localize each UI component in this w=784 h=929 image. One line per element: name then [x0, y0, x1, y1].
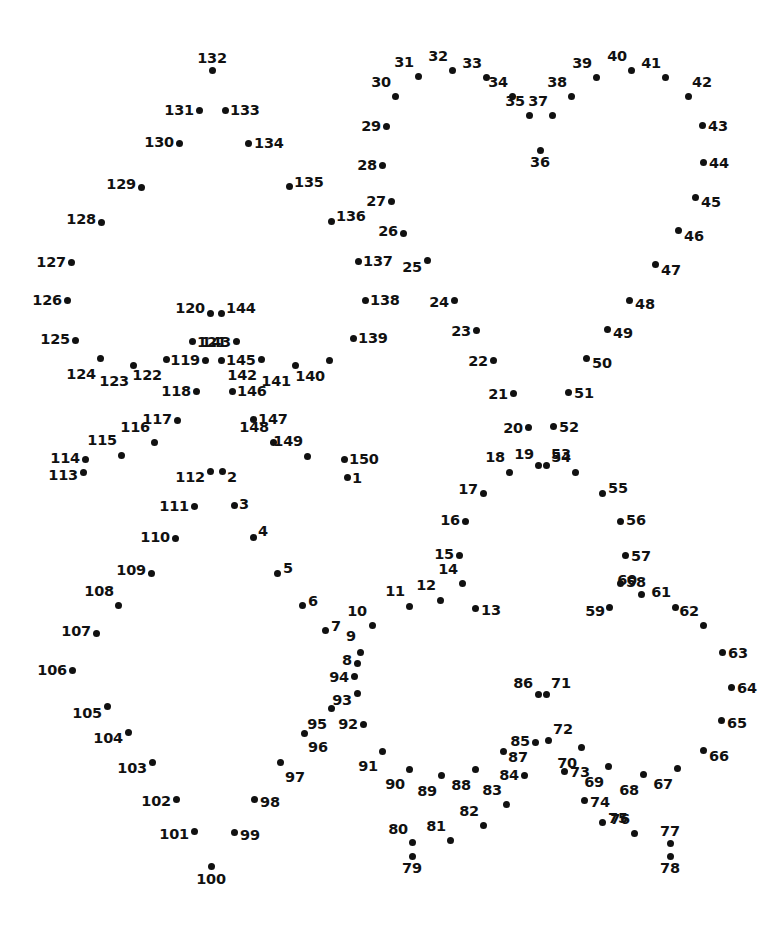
dot-116[interactable]	[151, 439, 158, 446]
dot-24[interactable]	[451, 297, 458, 304]
dot-2[interactable]	[219, 468, 226, 475]
dot-40[interactable]	[628, 67, 635, 74]
dot-135[interactable]	[286, 183, 293, 190]
dot-47[interactable]	[652, 261, 659, 268]
dot-103[interactable]	[149, 759, 156, 766]
dot-88[interactable]	[472, 766, 479, 773]
dot-74[interactable]	[581, 797, 588, 804]
dot-140[interactable]	[326, 357, 333, 364]
dot-77[interactable]	[667, 840, 674, 847]
dot-21[interactable]	[510, 390, 517, 397]
dot-149[interactable]	[304, 453, 311, 460]
dot-75[interactable]	[599, 819, 606, 826]
dot-26[interactable]	[400, 230, 407, 237]
dot-83[interactable]	[503, 801, 510, 808]
dot-86[interactable]	[535, 691, 542, 698]
dot-64[interactable]	[728, 684, 735, 691]
dot-14[interactable]	[459, 580, 466, 587]
dot-60[interactable]	[638, 591, 645, 598]
dot-42[interactable]	[685, 93, 692, 100]
dot-20[interactable]	[525, 424, 532, 431]
dot-68[interactable]	[640, 771, 647, 778]
dot-109[interactable]	[148, 570, 155, 577]
dot-67[interactable]	[674, 765, 681, 772]
dot-27[interactable]	[388, 198, 395, 205]
dot-111[interactable]	[191, 503, 198, 510]
dot-114[interactable]	[82, 456, 89, 463]
dot-73[interactable]	[561, 768, 568, 775]
dot-65[interactable]	[718, 717, 725, 724]
dot-56[interactable]	[617, 518, 624, 525]
dot-46[interactable]	[675, 227, 682, 234]
dot-139[interactable]	[350, 335, 357, 342]
dot-31[interactable]	[415, 73, 422, 80]
dot-95[interactable]	[328, 705, 335, 712]
dot-101[interactable]	[191, 828, 198, 835]
dot-126[interactable]	[64, 297, 71, 304]
dot-121[interactable]	[189, 338, 196, 345]
dot-84[interactable]	[521, 772, 528, 779]
dot-5[interactable]	[274, 570, 281, 577]
dot-122[interactable]	[163, 356, 170, 363]
dot-13[interactable]	[472, 605, 479, 612]
dot-129[interactable]	[138, 184, 145, 191]
dot-131[interactable]	[196, 107, 203, 114]
dot-104[interactable]	[125, 729, 132, 736]
dot-11[interactable]	[406, 603, 413, 610]
dot-85[interactable]	[532, 739, 539, 746]
dot-41[interactable]	[662, 74, 669, 81]
dot-37[interactable]	[549, 112, 556, 119]
dot-138[interactable]	[362, 297, 369, 304]
dot-93[interactable]	[354, 690, 361, 697]
dot-81[interactable]	[447, 837, 454, 844]
dot-4[interactable]	[250, 534, 257, 541]
dot-62[interactable]	[700, 622, 707, 629]
dot-30[interactable]	[392, 93, 399, 100]
dot-50[interactable]	[583, 355, 590, 362]
dot-100[interactable]	[208, 863, 215, 870]
dot-79[interactable]	[409, 853, 416, 860]
dot-128[interactable]	[98, 219, 105, 226]
dot-51[interactable]	[565, 389, 572, 396]
dot-90[interactable]	[406, 766, 413, 773]
dot-12[interactable]	[437, 597, 444, 604]
dot-69[interactable]	[605, 763, 612, 770]
dot-102[interactable]	[173, 796, 180, 803]
dot-25[interactable]	[424, 257, 431, 264]
dot-66[interactable]	[700, 747, 707, 754]
dot-72[interactable]	[545, 737, 552, 744]
dot-6[interactable]	[299, 602, 306, 609]
dot-82[interactable]	[480, 822, 487, 829]
dot-32[interactable]	[449, 67, 456, 74]
dot-107[interactable]	[93, 630, 100, 637]
dot-108[interactable]	[115, 602, 122, 609]
dot-106[interactable]	[69, 667, 76, 674]
dot-15[interactable]	[456, 552, 463, 559]
dot-29[interactable]	[383, 123, 390, 130]
dot-48[interactable]	[626, 297, 633, 304]
dot-127[interactable]	[68, 259, 75, 266]
dot-115[interactable]	[118, 452, 125, 459]
dot-43[interactable]	[699, 122, 706, 129]
dot-7[interactable]	[322, 627, 329, 634]
dot-9[interactable]	[357, 649, 364, 656]
dot-87[interactable]	[500, 748, 507, 755]
dot-8[interactable]	[354, 660, 361, 667]
dot-136[interactable]	[328, 218, 335, 225]
dot-113[interactable]	[80, 469, 87, 476]
dot-52[interactable]	[550, 423, 557, 430]
dot-105[interactable]	[104, 703, 111, 710]
dot-99[interactable]	[231, 829, 238, 836]
dot-80[interactable]	[409, 839, 416, 846]
dot-61[interactable]	[672, 604, 679, 611]
dot-55[interactable]	[599, 490, 606, 497]
dot-19[interactable]	[535, 462, 542, 469]
dot-137[interactable]	[355, 258, 362, 265]
dot-45[interactable]	[692, 194, 699, 201]
dot-49[interactable]	[604, 326, 611, 333]
dot-91[interactable]	[379, 748, 386, 755]
dot-117[interactable]	[174, 417, 181, 424]
dot-130[interactable]	[176, 140, 183, 147]
dot-143[interactable]	[233, 338, 240, 345]
dot-76[interactable]	[631, 830, 638, 837]
